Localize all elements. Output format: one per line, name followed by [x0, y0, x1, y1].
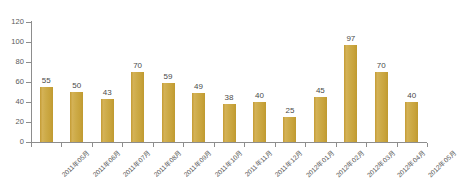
x-axis-label: 2012年03月 — [365, 149, 396, 179]
bar-value-label: 38 — [214, 93, 244, 102]
bar-value-label: 49 — [184, 82, 214, 91]
x-axis-label: 2011年12月 — [274, 149, 305, 179]
x-axis-label: 2012年01月 — [304, 149, 335, 179]
y-axis-tick-value: 40 — [0, 98, 24, 106]
bar — [131, 72, 144, 142]
bar — [101, 99, 114, 142]
bar — [344, 45, 357, 142]
x-axis-tick — [305, 143, 306, 147]
x-axis-label: 2011年09月 — [182, 149, 213, 179]
x-axis-label: 2011年10月 — [213, 149, 244, 179]
x-axis-tick — [366, 143, 367, 147]
bar-value-label: 97 — [336, 34, 366, 43]
y-axis-tick-value: 0 — [0, 138, 24, 146]
bar-value-label: 43 — [92, 88, 122, 97]
bar-value-label: 40 — [244, 91, 274, 100]
x-axis-label: 2012年02月 — [335, 149, 366, 179]
bar — [70, 92, 83, 142]
x-axis-tick — [92, 143, 93, 147]
bar-value-label: 45 — [305, 86, 335, 95]
bar-value-label: 25 — [275, 106, 305, 115]
x-axis-tick — [214, 143, 215, 147]
y-axis-tick-value: 100 — [0, 38, 24, 46]
x-axis-label: 2012年04月 — [396, 149, 427, 179]
bar-value-label: 50 — [62, 81, 92, 90]
bar-value-label: 59 — [153, 72, 183, 81]
bar-value-label: 70 — [123, 61, 153, 70]
y-axis-tick-label: 100 — [0, 38, 24, 46]
x-axis-label: 2011年05月 — [61, 149, 92, 179]
y-axis-tick-value: 20 — [0, 118, 24, 126]
y-axis-tick-label: 40 — [0, 98, 24, 106]
x-axis-tick — [427, 143, 428, 147]
x-axis-tick — [183, 143, 184, 147]
y-axis-tick-value: 60 — [0, 78, 24, 86]
y-axis-tick-label: 60 — [0, 78, 24, 86]
bar — [283, 117, 296, 142]
y-axis-tick-value: 80 — [0, 58, 24, 66]
y-axis-tick-label: 20 — [0, 118, 24, 126]
x-axis-tick — [244, 143, 245, 147]
bar-value-label: 40 — [397, 91, 427, 100]
x-axis-tick — [122, 143, 123, 147]
bar — [192, 93, 205, 142]
x-axis-tick — [31, 143, 32, 147]
bar — [405, 102, 418, 142]
bar — [223, 104, 236, 142]
bar — [253, 102, 266, 142]
bar — [375, 72, 388, 142]
x-axis-line — [31, 142, 427, 143]
bar — [162, 83, 175, 142]
x-axis-tick — [397, 143, 398, 147]
x-axis-tick — [275, 143, 276, 147]
x-axis-label: 2011年11月 — [243, 149, 274, 178]
x-axis-label: 2011年07月 — [122, 149, 153, 179]
x-axis-tick — [153, 143, 154, 147]
y-axis-tick-label: 80 — [0, 58, 24, 66]
x-axis-tick — [336, 143, 337, 147]
bar — [314, 97, 327, 142]
bar-value-label: 55 — [31, 76, 61, 85]
x-axis-label: 2011年08月 — [152, 149, 183, 179]
bar-value-label: 70 — [366, 61, 396, 70]
x-axis-tick — [61, 143, 62, 147]
x-axis-label: 2012年05月 — [426, 149, 457, 179]
x-axis-label: 2011年06月 — [91, 149, 122, 179]
chart-caption — [68, 183, 368, 189]
y-axis-tick-label: 120 — [0, 18, 24, 26]
y-axis-tick-label: 0 — [0, 138, 24, 146]
y-axis-tick-value: 120 — [0, 18, 24, 26]
bar — [40, 87, 53, 142]
